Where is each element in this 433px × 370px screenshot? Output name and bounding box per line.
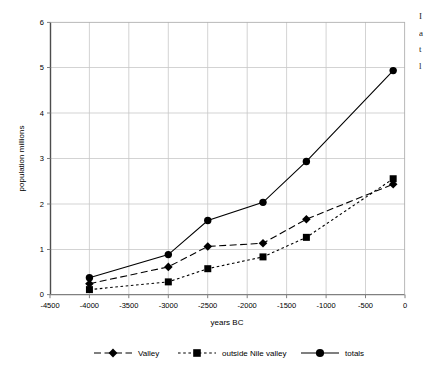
x-tick-label--2000: -2000 xyxy=(238,301,257,310)
data-point-square-icon xyxy=(204,265,211,272)
y-axis-title: population millions xyxy=(17,126,26,192)
y-tick-label-3: 3 xyxy=(40,154,44,163)
legend-marker-diamond-icon xyxy=(109,349,118,358)
data-point-square-icon xyxy=(303,234,310,241)
x-tick-label--4000: -4000 xyxy=(80,301,99,310)
legend-item-totals[interactable]: totals xyxy=(301,349,364,358)
x-tick-label--2500: -2500 xyxy=(198,301,217,310)
y-tick-label-0: 0 xyxy=(40,290,44,299)
adjacent-text-line-1: I xyxy=(419,8,433,25)
y-tick-label-1: 1 xyxy=(40,245,44,254)
legend-marker-circle-icon xyxy=(316,349,324,357)
line-chart: 0 1 2 3 4 5 6 -4500 -4000 -3500 -3000 xyxy=(0,0,433,370)
y-tick-labels: 0 1 2 3 4 5 6 xyxy=(40,18,44,299)
legend-marker-square-icon xyxy=(193,349,201,357)
adjacent-text-line-3: t xyxy=(419,41,433,58)
x-tick-label--3500: -3500 xyxy=(119,301,138,310)
x-tick-label--1500: -1500 xyxy=(277,301,296,310)
data-point-square-icon xyxy=(165,278,172,285)
legend-item-outside-nile-valley[interactable]: outside Nile valley xyxy=(178,349,286,358)
legend-label-totals: totals xyxy=(345,349,364,358)
data-point-circle-icon xyxy=(165,251,172,258)
adjacent-text-line-2: a xyxy=(419,25,433,42)
legend-label-outside-nile-valley: outside Nile valley xyxy=(222,349,286,358)
x-axis-title: years BC xyxy=(211,318,244,327)
y-tick-label-5: 5 xyxy=(40,63,44,72)
data-point-circle-icon xyxy=(259,199,266,206)
legend-item-valley[interactable]: Valley xyxy=(94,349,159,358)
data-point-circle-icon xyxy=(389,67,396,74)
legend-label-valley: Valley xyxy=(138,349,159,358)
x-tick-label--4500: -4500 xyxy=(40,301,59,310)
y-tick-label-2: 2 xyxy=(40,200,44,209)
adjacent-text-column: I a t l xyxy=(419,8,433,88)
x-tick-label--3000: -3000 xyxy=(159,301,178,310)
adjacent-text-line-4: l xyxy=(419,58,433,75)
x-tick-label--500: -500 xyxy=(358,301,373,310)
x-tick-label--1000: -1000 xyxy=(317,301,336,310)
y-tick-label-6: 6 xyxy=(40,18,44,27)
x-tick-label-0: 0 xyxy=(403,301,407,310)
data-point-circle-icon xyxy=(303,158,310,165)
data-point-square-icon xyxy=(260,253,267,260)
y-tick-label-4: 4 xyxy=(40,109,44,118)
data-point-square-icon xyxy=(86,286,93,293)
data-point-square-icon xyxy=(390,175,397,182)
figure-population-chart: 0 1 2 3 4 5 6 -4500 -4000 -3500 -3000 xyxy=(0,0,433,370)
x-tick-labels: -4500 -4000 -3500 -3000 -2500 -2000 -150… xyxy=(40,301,407,310)
data-point-circle-icon xyxy=(86,274,93,281)
data-point-circle-icon xyxy=(204,217,211,224)
chart-legend: Valley outside Nile valley totals xyxy=(94,349,364,358)
